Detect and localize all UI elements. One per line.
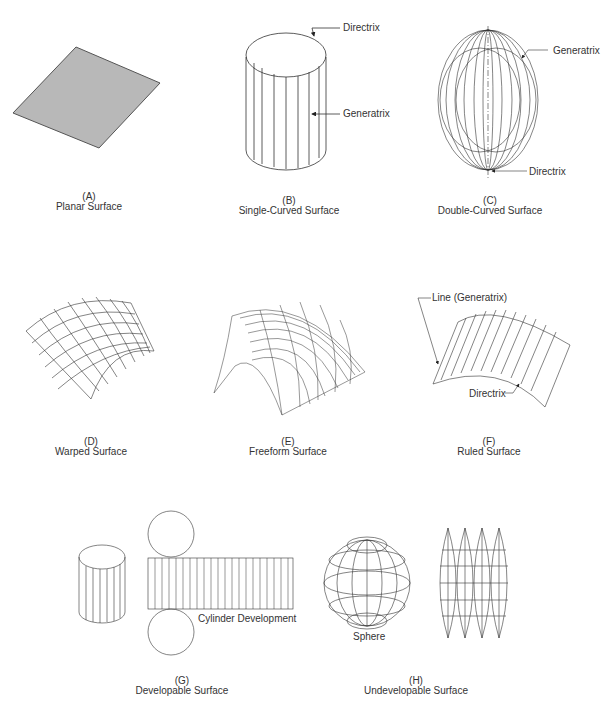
caption-c: (C)Double-Curved Surface (438, 196, 543, 216)
callout-sphere: Sphere (353, 631, 385, 642)
caption-b: (B)Single-Curved Surface (239, 196, 340, 216)
single-curved-surface-figure (246, 28, 340, 170)
callout-generatrix-b: Generatrix (343, 108, 390, 119)
caption-a: (A)Planar Surface (56, 192, 122, 212)
callout-directrix-f: Directrix (469, 388, 506, 399)
caption-f: (F)Ruled Surface (457, 437, 520, 457)
freeform-surface-figure (214, 302, 365, 415)
caption-g: (G)Developable Surface (136, 676, 229, 696)
gore-strips (440, 528, 508, 638)
undevelopable-surface-figure (324, 528, 508, 638)
planar-surface-figure (13, 47, 160, 148)
callout-directrix-b: Directrix (343, 22, 380, 33)
developable-surface-figure (79, 511, 293, 655)
caption-d: (D)Warped Surface (55, 437, 127, 457)
caption-e: (E)Freeform Surface (249, 437, 327, 457)
callout-line-generatrix-f: Line (Generatrix) (432, 292, 507, 303)
caption-h: (H)Undevelopable Surface (364, 676, 468, 696)
callout-cylinder-development: Cylinder Development (198, 613, 296, 624)
double-curved-surface-figure (438, 26, 548, 178)
surfaces-diagram (0, 0, 616, 708)
warped-surface-figure (26, 297, 154, 399)
callout-directrix-c: Directrix (529, 166, 566, 177)
callout-generatrix-c: Generatrix (553, 45, 600, 56)
